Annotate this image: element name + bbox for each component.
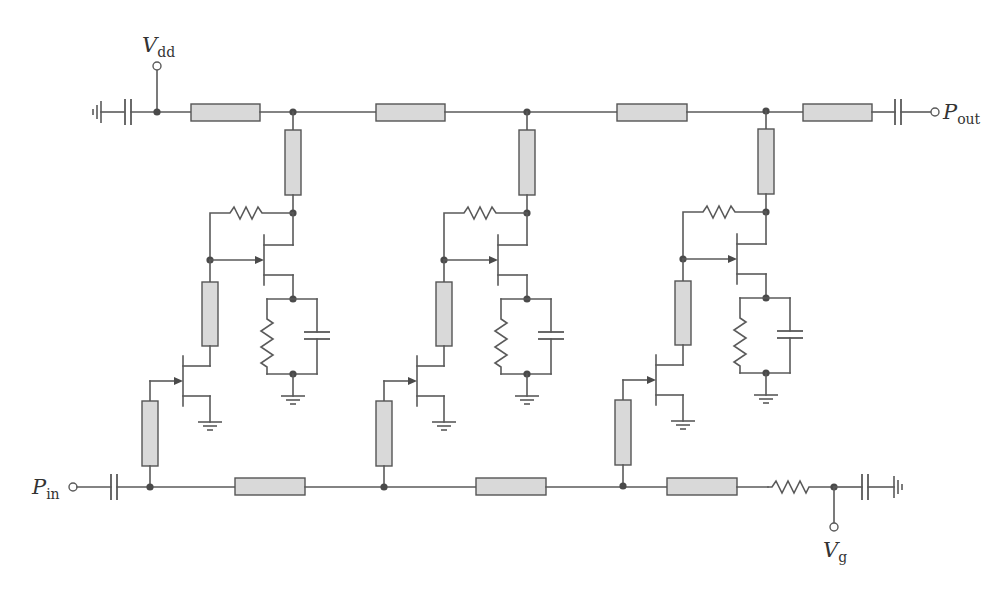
- vdd-label: Vdd: [142, 33, 175, 60]
- gate-line: Pin Vg: [31, 474, 902, 565]
- ground-icon: [93, 101, 101, 123]
- amplifier-stage-3: [615, 107, 803, 489]
- pin-terminal: [69, 483, 77, 491]
- drain-transmission-line-4: [803, 104, 872, 121]
- ground-icon: [894, 476, 902, 498]
- node: [153, 108, 160, 115]
- pout-label: Pout: [942, 100, 981, 127]
- bypass-capacitor-gate: [862, 474, 868, 500]
- gate-termination-resistor: [768, 481, 834, 493]
- bypass-capacitor-drain: [125, 99, 131, 125]
- gate-transmission-line-3: [667, 478, 737, 495]
- drain-transmission-line-3: [617, 104, 687, 121]
- output-dc-block-capacitor: [895, 99, 901, 125]
- vg-terminal: [830, 523, 838, 531]
- pin-label: Pin: [31, 475, 60, 502]
- drain-transmission-line-2: [376, 104, 445, 121]
- vg-label: Vg: [823, 538, 847, 565]
- gate-transmission-line-1: [235, 478, 305, 495]
- drain-transmission-line-1: [191, 104, 260, 121]
- circuit-diagram: Vdd Pout Pin: [0, 0, 1008, 600]
- amplifier-stage-1: [142, 108, 330, 490]
- drain-line: Vdd Pout: [93, 33, 981, 127]
- input-dc-block-capacitor: [111, 474, 117, 500]
- amplifier-stage-2: [376, 108, 564, 490]
- vdd-terminal: [153, 62, 161, 70]
- gate-transmission-line-2: [476, 478, 546, 495]
- pout-terminal: [931, 108, 939, 116]
